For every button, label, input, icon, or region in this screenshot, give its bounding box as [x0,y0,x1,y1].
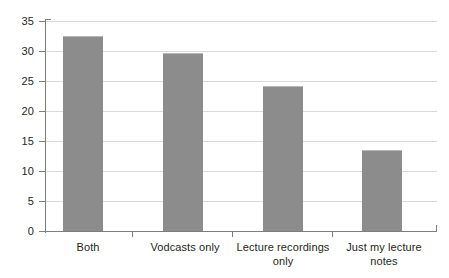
x-tick-label-just-my-lecture-notes: Just my lecture notes [336,240,432,268]
y-tick-mark-10 [39,171,45,172]
x-tick-label-vodcasts-only: Vodcasts only [137,240,233,254]
y-tick-label-5: 5 [8,196,34,207]
x-tick-label-just-my-lecture-notes-line-1: Just my lecture [336,240,432,254]
bar-vodcasts-only[interactable] [163,53,203,231]
y-tick-label-35: 35 [8,16,34,27]
x-tick-label-just-my-lecture-notes-line-2: notes [336,254,432,268]
x-tick-mark-1 [132,231,133,237]
x-tick-mark-3 [332,231,333,237]
y-tick-mark-20 [39,111,45,112]
y-tick-label-0: 0 [8,226,34,237]
y-tick-label-10: 10 [8,166,34,177]
y-tick-mark-25 [39,81,45,82]
y-tick-mark-35 [39,21,45,22]
y-tick-mark-5 [39,201,45,202]
y-tick-label-30: 30 [8,46,34,57]
gridline-30 [45,51,437,52]
gridline-25 [45,81,437,82]
x-tick-label-both: Both [43,240,133,254]
y-tick-label-15: 15 [8,136,34,147]
y-tick-label-25: 25 [8,76,34,87]
x-tick-mark-2 [232,231,233,237]
x-axis-end-cap [436,225,437,232]
x-tick-label-vodcasts-only-line-1: Vodcasts only [137,240,233,254]
y-axis-top-cap [45,19,51,20]
x-tick-label-lecture-recordings-only-line-1: Lecture recordings [233,240,333,254]
bar-both[interactable] [63,36,103,231]
plot-area [45,21,437,231]
y-tick-mark-0 [39,231,45,232]
x-tick-label-lecture-recordings-only: Lecture recordings only [233,240,333,268]
x-tick-label-both-line-1: Both [43,240,133,254]
x-axis-line [45,231,437,232]
gridline-20 [45,111,437,112]
y-axis-line [45,19,46,233]
y-tick-mark-15 [39,141,45,142]
bar-chart: 35 30 25 20 15 10 5 0 Both Vodcasts only… [0,0,449,278]
bar-lecture-recordings-only[interactable] [263,86,303,231]
x-tick-label-lecture-recordings-only-line-2: only [233,254,333,268]
y-tick-label-20: 20 [8,106,34,117]
bar-just-my-lecture-notes[interactable] [362,150,402,231]
y-tick-mark-30 [39,51,45,52]
gridline-15 [45,141,437,142]
gridline-35 [45,21,437,22]
